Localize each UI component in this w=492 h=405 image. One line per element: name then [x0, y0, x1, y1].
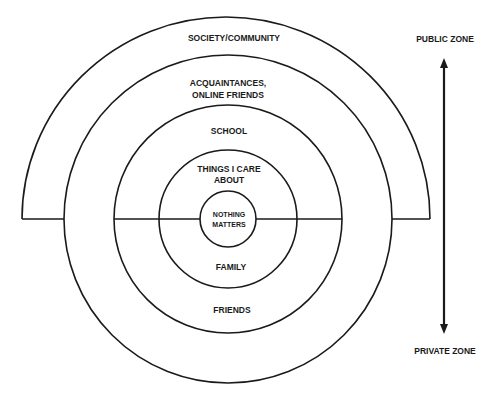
acquaintances-label-line1: ACQUAINTANCES, — [190, 78, 266, 88]
care-label-line1: THINGS I CARE — [197, 164, 261, 174]
core-label-line1: NOTHING — [213, 211, 246, 218]
school-label: SCHOOL — [211, 126, 247, 136]
friends-label: FRIENDS — [213, 305, 251, 315]
public-zone-label: PUBLIC ZONE — [416, 34, 474, 44]
arrow-up-icon — [440, 58, 448, 68]
core-label-line2: MATTERS — [212, 221, 246, 228]
zones-diagram: SOCIETY/COMMUNITY ACQUAINTANCES, ONLINE … — [0, 0, 492, 405]
acquaintances-label-line2: ONLINE FRIENDS — [192, 90, 264, 100]
private-zone-label: PRIVATE ZONE — [414, 346, 476, 356]
family-label: FAMILY — [216, 262, 247, 272]
arrow-down-icon — [440, 324, 448, 334]
care-label-line2: ABOUT — [214, 175, 245, 185]
society-label: SOCIETY/COMMUNITY — [188, 33, 280, 43]
society-ring — [22, 17, 430, 219]
core-circle — [200, 191, 256, 247]
